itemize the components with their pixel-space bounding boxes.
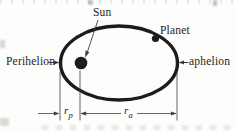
ra-dimension-arrowhead-right (171, 112, 177, 116)
sun-dot (75, 57, 88, 70)
ra-label: ra (124, 105, 133, 119)
rp-subscript: p (68, 110, 72, 120)
planet-label: Planet (160, 25, 190, 37)
perihelion-label: Perihelion (6, 56, 55, 68)
rp-dimension-arrowhead (54, 112, 60, 116)
sun-label: Sun (93, 7, 112, 19)
ra-subscript: a (128, 110, 132, 120)
sun-pointer-line (88, 20, 99, 52)
aphelion-label: aphelion (189, 56, 230, 68)
ra-dimension-arrowhead-left (80, 112, 86, 116)
sun-pointer-arrowhead (85, 50, 89, 57)
orbit-figure: Sun Planet Perihelion aphelion rp ra (0, 0, 235, 131)
planet-dot (152, 35, 159, 42)
rp-label: rp (64, 105, 73, 119)
aphelion-arrowhead (179, 60, 185, 64)
